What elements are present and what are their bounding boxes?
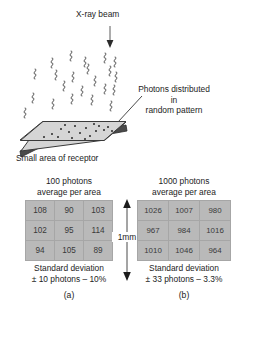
down-arrow-icon (107, 26, 114, 48)
grid-cell: 103 (84, 201, 113, 221)
panel-b-sd-line-1: Standard deviation (129, 263, 239, 274)
panel-b-standard-deviation: Standard deviation ± 33 photons – 3.3% (129, 263, 239, 284)
panel-b-sublabel: (b) (129, 290, 239, 300)
grid-cell: 95 (55, 221, 84, 241)
panel-a-title: 100 photons average per area (14, 176, 124, 197)
photons-label-line-3: random pattern (129, 105, 219, 116)
grid-cell: 964 (200, 241, 231, 261)
panel-a-sd-line-2: ± 10 photons – 10% (14, 274, 124, 285)
grid-cell: 984 (169, 221, 200, 241)
grid-cell: 90 (55, 201, 84, 221)
grid-cell: 1046 (169, 241, 200, 261)
panel-b-title: 1000 photons average per area (129, 176, 239, 197)
receptor-area-label: Small area of receptor (16, 153, 98, 164)
table-row: 967 984 1016 (138, 221, 231, 241)
panel-b-photon-count-grid: 1026 1007 980 967 984 1016 1010 1046 964 (137, 200, 231, 261)
panel-b-title-line-2: average per area (129, 187, 239, 198)
panel-a: 100 photons average per area 108 90 103 … (14, 176, 124, 300)
grid-cell: 89 (84, 241, 113, 261)
grid-cell: 102 (26, 221, 55, 241)
grid-cell: 105 (55, 241, 84, 261)
grid-cell: 980 (200, 201, 231, 221)
grid-cell: 967 (138, 221, 169, 241)
grid-cell: 1010 (138, 241, 169, 261)
panel-b-title-line-1: 1000 photons (129, 176, 239, 187)
table-row: 1026 1007 980 (138, 201, 231, 221)
grid-cell: 108 (26, 201, 55, 221)
table-row: 94 105 89 (26, 241, 113, 261)
photon-squiggle-group (24, 51, 117, 118)
figure-canvas: X-ray beam Photons distributed in random… (0, 0, 254, 337)
grid-cell: 1026 (138, 201, 169, 221)
panel-a-photon-count-grid: 108 90 103 102 95 114 94 105 89 (25, 200, 113, 261)
photons-distributed-label: Photons distributed in random pattern (129, 84, 219, 116)
receptor-slab (20, 122, 127, 158)
panel-b: 1000 photons average per area 1026 1007 … (129, 176, 239, 300)
xray-beam-label: X-ray beam (76, 9, 119, 20)
table-row: 102 95 114 (26, 221, 113, 241)
panel-a-standard-deviation: Standard deviation ± 10 photons – 10% (14, 263, 124, 284)
panel-b-sd-line-2: ± 33 photons – 3.3% (129, 274, 239, 285)
photons-label-line-2: in (129, 95, 219, 106)
panel-a-title-line-1: 100 photons (14, 176, 124, 187)
photons-label-line-1: Photons distributed (129, 84, 219, 95)
panel-a-sd-line-1: Standard deviation (14, 263, 124, 274)
grid-cell: 114 (84, 221, 113, 241)
table-row: 1010 1046 964 (138, 241, 231, 261)
panel-a-sublabel: (a) (14, 290, 124, 300)
grid-cell: 94 (26, 241, 55, 261)
grid-cell: 1007 (169, 201, 200, 221)
panel-a-title-line-2: average per area (14, 187, 124, 198)
grid-cell: 1016 (200, 221, 231, 241)
table-row: 108 90 103 (26, 201, 113, 221)
